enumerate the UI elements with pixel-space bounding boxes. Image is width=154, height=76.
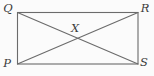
- diagram-canvas: Q R P S X: [0, 0, 154, 76]
- vertex-label-R: R: [140, 1, 150, 15]
- intersection-label-X: X: [70, 21, 80, 35]
- vertex-label-S: S: [140, 55, 148, 69]
- geometry-diagram: Q R P S X: [0, 0, 154, 76]
- vertex-label-P: P: [2, 56, 11, 70]
- vertex-label-Q: Q: [3, 1, 13, 15]
